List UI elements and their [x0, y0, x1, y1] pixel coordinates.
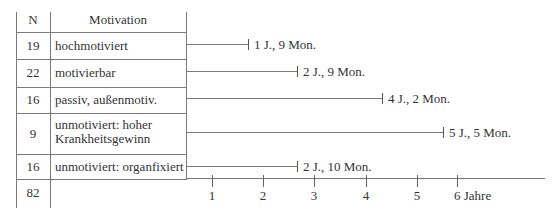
row-n: 22 — [16, 66, 50, 80]
x-tick-label: 1 — [209, 189, 216, 203]
x-tick-label: 4 — [363, 189, 370, 203]
row-divider — [16, 113, 187, 114]
header-motivation: Motivation — [50, 13, 186, 27]
row-motivation: motivierbar — [55, 66, 116, 80]
duration-bar — [187, 98, 382, 99]
duration-bar — [187, 132, 443, 133]
row-n: 16 — [16, 93, 50, 107]
duration-bar — [187, 44, 248, 45]
row-motivation-line2: Krankheitsgewinn — [55, 132, 150, 146]
duration-label: 2 J., 10 Mon. — [303, 160, 372, 174]
bar-end-marker — [297, 66, 298, 77]
x-tick — [417, 175, 418, 187]
total-n: 82 — [16, 186, 50, 200]
row-motivation: hochmotiviert — [55, 39, 128, 53]
row-motivation: passiv, außenmotiv. — [55, 93, 157, 107]
duration-bar — [187, 71, 297, 72]
duration-label: 5 J., 5 Mon. — [449, 126, 511, 140]
bar-end-marker — [382, 93, 383, 104]
bar-end-marker — [443, 127, 444, 138]
row-divider — [16, 87, 187, 88]
duration-label: 4 J., 2 Mon. — [388, 92, 450, 106]
duration-bar — [187, 166, 297, 167]
x-tick-label: 5 — [414, 189, 421, 203]
row-n: 16 — [16, 160, 50, 174]
row-n: 9 — [16, 127, 50, 141]
total-row-divider — [16, 179, 187, 180]
duration-label: 1 J., 9 Mon. — [254, 38, 316, 52]
x-tick — [457, 175, 458, 187]
row-motivation-line1: unmotiviert: hoher — [55, 118, 152, 132]
x-tick — [314, 175, 315, 187]
duration-label: 2 J., 9 Mon. — [303, 65, 365, 79]
bar-end-marker — [297, 161, 298, 172]
x-tick — [263, 175, 264, 187]
header-n: N — [16, 13, 50, 27]
x-tick-label: 3 — [311, 189, 318, 203]
bar-end-marker — [248, 39, 249, 50]
x-tick-label-unit: 6 Jahre — [454, 189, 491, 203]
x-tick — [366, 175, 367, 187]
row-n: 19 — [16, 39, 50, 53]
x-tick-label: 2 — [260, 189, 267, 203]
row-divider — [16, 154, 187, 155]
row-divider — [16, 59, 187, 60]
x-tick — [212, 175, 213, 187]
header-divider — [16, 32, 187, 33]
row-motivation: unmotiviert: organfixiert — [55, 160, 184, 174]
